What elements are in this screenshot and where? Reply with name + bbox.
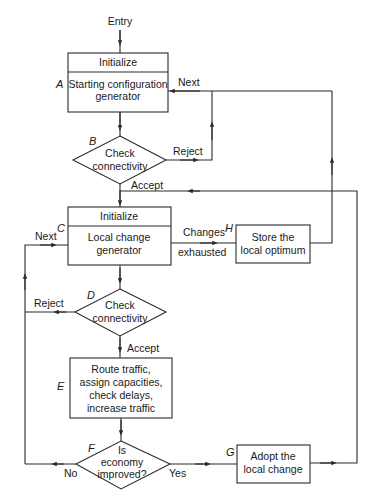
edge-label-f-yes: Yes (169, 467, 186, 479)
edge-label-changes: Changes (183, 226, 225, 238)
node-d-line-1: Check (105, 299, 136, 311)
node-c-line-2: generator (97, 244, 142, 256)
edge-h-to-next (310, 91, 332, 243)
node-a-header: Initialize (99, 56, 137, 68)
node-a-starting-config-generator: Initialize Starting configuration genera… (68, 53, 168, 112)
node-h-line-2: local optimum (241, 244, 306, 256)
node-g-line-2: local change (244, 463, 303, 475)
node-f-line-3: improved? (97, 468, 146, 480)
node-h-store-local-optimum: Store the local optimum (236, 225, 310, 263)
node-e-line-3: check delays, (89, 389, 153, 401)
node-f-line-1: Is (118, 444, 126, 456)
edge-label-f-no: No (64, 467, 78, 479)
node-b-tag: B (89, 135, 96, 147)
node-e-line-4: increase traffic (87, 402, 155, 414)
node-g-line-1: Adopt the (251, 450, 296, 462)
edge-label-d-reject: Reject (34, 297, 64, 309)
node-h-tag: H (225, 222, 233, 234)
edge-label-b-accept: Accept (131, 179, 163, 191)
edge-label-b-reject: Reject (173, 145, 203, 157)
node-h-line-1: Store the (252, 231, 295, 243)
node-e-line-1: Route traffic, (91, 363, 150, 375)
node-f-tag: F (88, 442, 96, 454)
edge-label-exhausted: exhausted (178, 246, 227, 258)
edge-label-next-c: Next (35, 230, 57, 242)
node-c-header: Initialize (100, 210, 138, 222)
node-b-line-1: Check (105, 147, 136, 159)
node-c-tag: C (57, 222, 65, 234)
node-d-tag: D (87, 289, 95, 301)
entry-label: Entry (108, 15, 133, 27)
flowchart: Entry Initialize Starting configuration … (0, 0, 378, 503)
edge-label-d-accept: Accept (127, 342, 159, 354)
node-c-local-change-generator: Initialize Local change generator (68, 207, 171, 265)
node-a-line-1: Starting configuration (68, 78, 167, 90)
node-g-tag: G (226, 446, 235, 458)
edge-next-to-c (25, 245, 68, 464)
node-e-line-2: assign capacities, (80, 376, 163, 388)
node-d-line-2: connectivity (93, 312, 149, 324)
node-e-tag: E (57, 380, 65, 392)
edge-label-next-a: Next (178, 76, 200, 88)
node-f-line-2: economy (101, 456, 144, 468)
node-b-check-connectivity: Check connectivity (73, 136, 166, 184)
node-a-line-2: generator (96, 90, 141, 102)
node-e-route-traffic: Route traffic, assign capacities, check … (70, 358, 172, 418)
node-g-adopt-local-change: Adopt the local change (237, 445, 310, 483)
node-a-tag: A (55, 78, 63, 90)
node-b-line-2: connectivity (93, 160, 149, 172)
node-c-line-1: Local change (88, 231, 151, 243)
